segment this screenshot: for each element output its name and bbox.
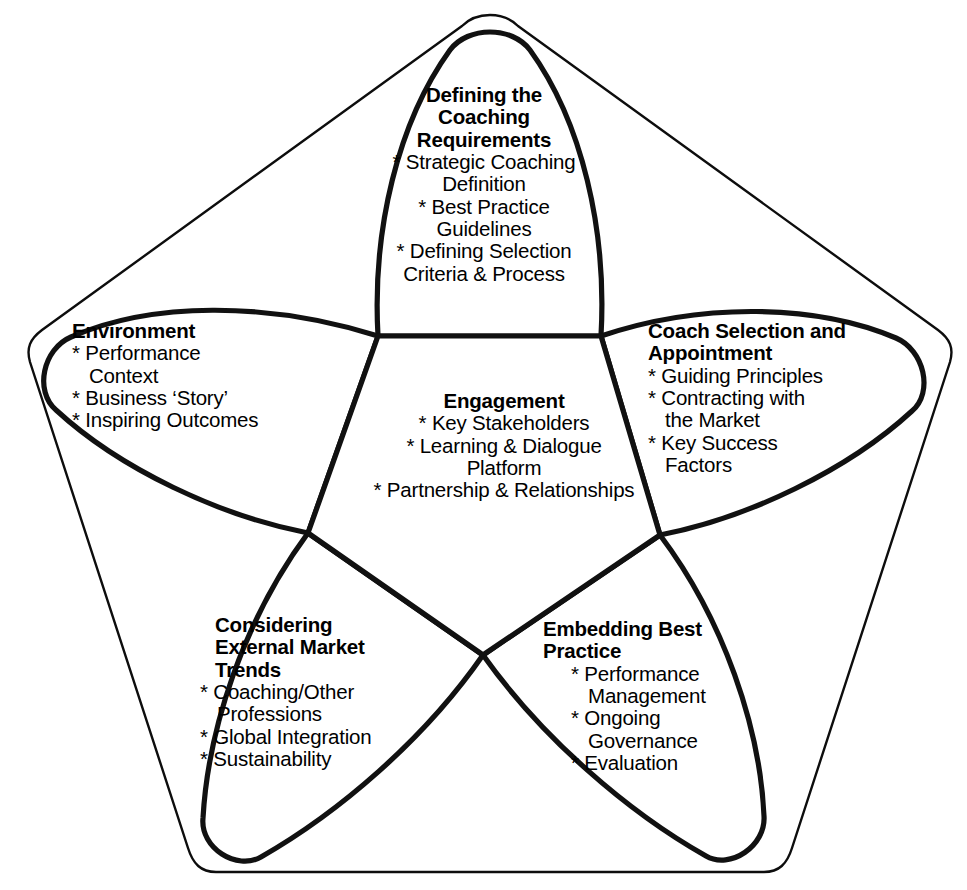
petal-heading-line: Appointment [648,342,910,364]
center-item: * Partnership & Relationships [356,479,652,501]
petal-item: Guidelines [378,218,590,240]
petal-item: Factors [648,454,910,476]
petal-item: * Defining Selection [378,240,590,262]
petal-item: the Market [648,409,910,431]
center-text-engagement: Engagement * Key Stakeholders * Learning… [356,390,652,502]
petal-item: * Inspiring Outcomes [72,409,340,431]
petal-item: * Evaluation [543,752,763,774]
petal-item: * Coaching/Other [200,681,435,703]
petal-heading-line: Coach Selection and [648,320,910,342]
petal-heading-line: Requirements [378,129,590,151]
petal-text-coach-selection-and-appointment: Coach Selection and Appointment * Guidin… [648,320,910,476]
petal-heading-line: Defining the [378,84,590,106]
petal-heading-line: Considering [215,614,435,636]
petal-heading-line: Environment [72,320,340,342]
petal-item: Professions [200,703,435,725]
petal-item: * Sustainability [200,748,435,770]
petal-item: * Ongoing [543,707,763,729]
petal-item: * Performance [72,342,340,364]
petal-item: * Global Integration [200,726,435,748]
petal-heading-line: Trends [215,659,435,681]
center-heading: Engagement [356,390,652,412]
petal-item: Criteria & Process [378,263,590,285]
petal-item: Definition [378,173,590,195]
center-item: Platform [356,457,652,479]
petal-item: * Best Practice [378,196,590,218]
petal-text-considering-external-market-trends: Considering External Market Trends * Coa… [215,614,435,770]
petal-heading-line: Practice [543,640,763,662]
petal-item: * Guiding Principles [648,365,910,387]
petal-item: Context [72,365,340,387]
petal-item: * Contracting with [648,387,910,409]
petal-item: * Strategic Coaching [378,151,590,173]
petal-item: * Performance [543,663,763,685]
petal-item: * Key Success [648,432,910,454]
petal-heading-line: External Market [215,636,435,658]
petal-heading-line: Coaching [378,106,590,128]
petal-text-environment: Environment * Performance Context * Busi… [72,320,340,432]
petal-item: * Business ‘Story’ [72,387,340,409]
center-item: * Learning & Dialogue [356,435,652,457]
pentagon-framework-diagram: Defining the Coaching Requirements * Str… [0,0,967,890]
petal-text-embedding-best-practice: Embedding Best Practice * Performance Ma… [543,618,763,774]
petal-text-defining-the-coaching-requirements: Defining the Coaching Requirements * Str… [378,84,590,285]
petal-heading-line: Embedding Best [543,618,763,640]
center-item: * Key Stakeholders [356,412,652,434]
petal-item: Governance [543,730,763,752]
petal-item: Management [543,685,763,707]
